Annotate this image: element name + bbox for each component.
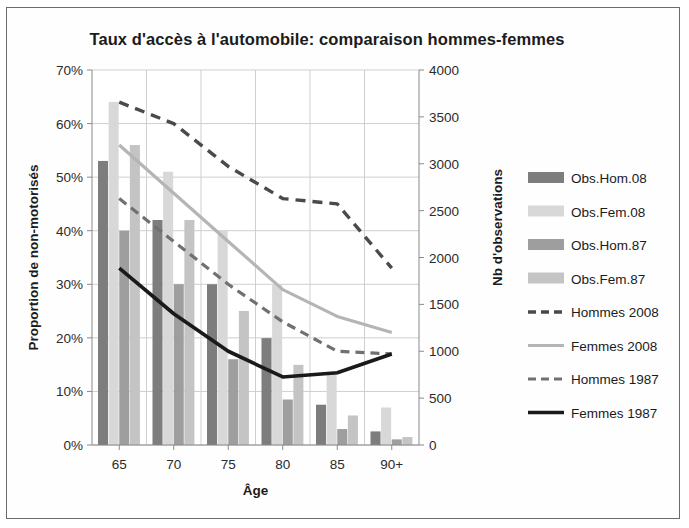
y-axis-tick-label-left: 70% [56,63,83,78]
y-axis-tick-label-left: 50% [56,170,83,185]
bar [184,220,194,445]
bar [381,408,391,446]
chart-canvas: 0%10%20%30%40%50%60%70%05001000150020002… [7,8,681,520]
bar [283,400,293,445]
legend-item-label: Obs.Fem.87 [571,272,645,287]
x-axis-tick-label: 90+ [380,457,403,472]
y-axis-tick-label-left: 20% [56,331,83,346]
x-axis-tick-label: 85 [330,457,345,472]
bar [98,161,108,445]
legend-swatch [528,273,564,284]
y-axis-tick-label-left: 40% [56,224,83,239]
y-axis-tick-label-right: 3500 [429,110,459,125]
bar [174,284,184,445]
bar [207,284,217,445]
x-axis-tick-label: 75 [221,457,236,472]
legend-swatch [528,239,564,250]
y-axis-tick-label-right: 2500 [429,204,459,219]
y-axis-tick-label-right: 4000 [429,63,459,78]
bar [262,338,272,445]
y-axis-tick-label-right: 3000 [429,157,459,172]
bar [239,311,249,445]
y-axis-tick-label-right: 1000 [429,344,459,359]
legend-item-label: Femmes 1987 [571,406,657,421]
legend-item-label: Hommes 2008 [571,305,659,320]
bar [109,102,119,445]
bar [348,415,358,445]
x-axis-tick-label: 70 [166,457,181,472]
bar [130,145,140,445]
legend: Obs.Hom.08Obs.Fem.08Obs.Hom.87Obs.Fem.87… [528,171,659,421]
y-axis-tick-label-right: 1500 [429,297,459,312]
bar [392,439,402,445]
y-axis-tick-label-left: 60% [56,117,83,132]
x-axis-tick-label: 65 [112,457,127,472]
legend-item[interactable]: Obs.Hom.08 [528,171,647,186]
y-axis-tick-label-right: 2000 [429,251,459,266]
bar [316,405,326,445]
bar [218,231,228,445]
bar [272,284,282,445]
bar [337,429,347,445]
legend-item[interactable]: Femmes 1987 [528,406,657,421]
bar [402,437,412,445]
y-axis-tick-label-right: 0 [429,438,437,453]
y-axis-tick-label-left: 0% [63,438,83,453]
legend-item[interactable]: Obs.Fem.08 [528,205,645,220]
legend-item[interactable]: Obs.Hom.87 [528,238,647,253]
legend-swatch [528,206,564,217]
legend-item[interactable]: Hommes 2008 [528,305,659,320]
chart-frame: Taux d'accès à l'automobile: comparaison… [6,7,680,519]
x-axis-title: Âge [243,483,269,498]
y-axis-tick-label-left: 10% [56,384,83,399]
bar [153,220,163,445]
y-axis-tick-label-right: 500 [429,391,452,406]
bar [327,373,337,445]
y-axis-title-right: Nb d'observations [490,169,505,286]
legend-item-label: Femmes 2008 [571,339,657,354]
legend-item[interactable]: Hommes 1987 [528,372,659,387]
bar [371,431,381,445]
y-axis-title-left: Proportion de non-motorisés [26,164,41,350]
y-axis-tick-label-left: 30% [56,277,83,292]
legend-swatch [528,172,564,183]
legend-item[interactable]: Obs.Fem.87 [528,272,645,287]
legend-item[interactable]: Femmes 2008 [528,339,657,354]
legend-item-label: Obs.Hom.87 [571,238,647,253]
legend-item-label: Obs.Fem.08 [571,205,645,220]
legend-item-label: Obs.Hom.08 [571,171,647,186]
bar [228,359,238,445]
legend-item-label: Hommes 1987 [571,372,659,387]
x-axis-tick-label: 80 [275,457,290,472]
bar [119,231,129,445]
